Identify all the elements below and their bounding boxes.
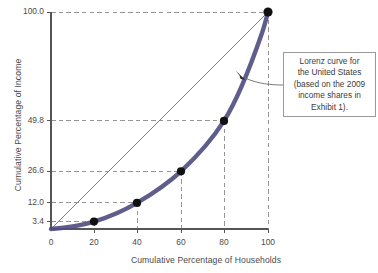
y-axis-title: Cumulative Percentage of Income bbox=[13, 15, 23, 235]
data-point-markers-group bbox=[90, 7, 273, 225]
xtick-label-40: 40 bbox=[123, 237, 151, 247]
xtick-label-60: 60 bbox=[167, 237, 195, 247]
annotation-leader-line bbox=[245, 78, 283, 85]
data-point-100-100.0 bbox=[263, 7, 272, 16]
data-point-80-49.8 bbox=[220, 117, 228, 125]
data-point-60-26.6 bbox=[177, 167, 185, 175]
annotation-callout-text: Lorenz curve forthe United States(based … bbox=[294, 56, 366, 113]
lorenz-curve-figure: 100.0 49.8 26.6 12.0 3.4 0 20 40 60 80 1… bbox=[0, 0, 378, 273]
data-point-20-3.4 bbox=[90, 218, 98, 226]
annotation-callout-box: Lorenz curve forthe United States(based … bbox=[283, 52, 376, 117]
xtick-label-20: 20 bbox=[80, 237, 108, 247]
chart-canvas bbox=[0, 0, 378, 273]
x-axis-title: Cumulative Percentage of Households bbox=[0, 255, 378, 265]
data-point-40-12.0 bbox=[133, 199, 141, 207]
xtick-label-80: 80 bbox=[210, 237, 238, 247]
xtick-label-0: 0 bbox=[37, 237, 65, 247]
xtick-label-100: 100 bbox=[254, 237, 282, 247]
